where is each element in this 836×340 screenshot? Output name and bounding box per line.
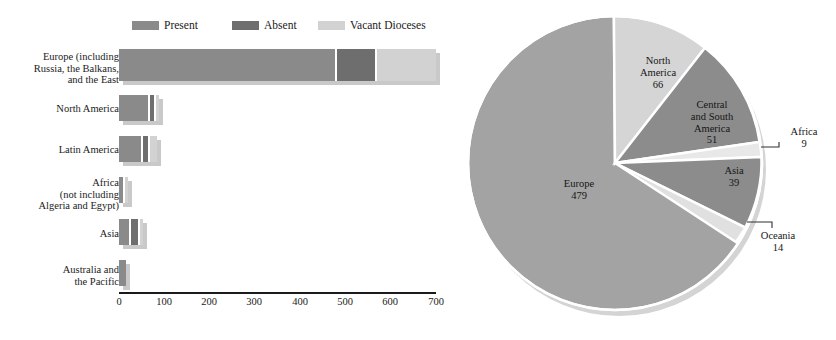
pie-label-name: North [646, 55, 671, 66]
pie-label-name: and South [668, 111, 756, 123]
bar-row [119, 177, 128, 203]
pie-label-value: 14 [747, 242, 809, 254]
x-tick-100: 100 [144, 296, 184, 307]
category-label-line: Europe (including [9, 51, 119, 63]
segment-divider [148, 95, 150, 121]
segment-divider [138, 219, 140, 245]
category-label-line: and the East [9, 74, 119, 86]
category-label-latin-america: Latin America [9, 144, 119, 156]
segment-divider [154, 95, 156, 121]
category-label-line: Algeria and Egypt) [9, 200, 119, 212]
pie-label-name: America [618, 67, 698, 79]
bar-segment-vacant [376, 49, 436, 81]
segment-divider [123, 177, 125, 203]
pie-label-name: America [668, 123, 756, 135]
category-label-line: Latin America [9, 144, 119, 156]
figure-root: Present Absent Vacant Dioceses Europe (i… [0, 0, 836, 340]
x-tick-200: 200 [189, 296, 229, 307]
bar-plot-area: Europe (including Russia, the Balkans, a… [0, 0, 452, 340]
segment-divider [141, 136, 143, 162]
bar-segment-present [119, 95, 149, 121]
x-tick-600: 600 [370, 296, 410, 307]
segment-divider [148, 136, 150, 162]
category-label-line: (not including [9, 189, 119, 201]
pie-label-name: Asia [724, 165, 743, 176]
x-axis-line [119, 292, 436, 294]
category-label-line: Russia, the Balkans, [9, 63, 119, 75]
bar-row [119, 219, 143, 245]
bar-row [119, 260, 126, 286]
bar-segment-vacant [139, 219, 143, 245]
bar-segment-vacant [155, 95, 159, 121]
x-tick-300: 300 [234, 296, 274, 307]
bar-row [119, 136, 157, 162]
category-label-asia: Asia [9, 228, 119, 240]
pie-label-europe: Europe 479 [536, 178, 622, 202]
x-tick-400: 400 [280, 296, 320, 307]
pie-chart-svg [452, 0, 836, 340]
category-label-line: Australia and [9, 264, 119, 276]
category-label-line: North America [9, 103, 119, 115]
pie-label-north-america: North America 66 [618, 55, 698, 90]
segment-divider [129, 219, 131, 245]
x-tick-0: 0 [99, 296, 139, 307]
pie-label-central-south-america: Central and South America 51 [668, 99, 756, 146]
category-label-europe: Europe (including Russia, the Balkans, a… [9, 51, 119, 86]
pie-label-value: 39 [708, 177, 760, 189]
segment-divider [335, 49, 337, 81]
category-label-line: Africa [9, 177, 119, 189]
bar-segment-present [119, 260, 126, 286]
category-label-africa: Africa (not including Algeria and Egypt) [9, 177, 119, 212]
pie-label-value: 9 [779, 138, 829, 150]
category-label-north-america: North America [9, 103, 119, 115]
pie-label-africa: Africa 9 [779, 126, 829, 150]
x-tick-500: 500 [325, 296, 365, 307]
pie-label-value: 479 [536, 190, 622, 202]
pie-label-name: Europe [564, 178, 594, 189]
bar-segment-present [119, 49, 336, 81]
pie-label-value: 51 [668, 134, 756, 146]
category-label-line: Asia [9, 228, 119, 240]
pie-label-oceania: Oceania 14 [747, 230, 809, 254]
bar-row [119, 95, 159, 121]
category-label-line: the Pacific [9, 276, 119, 288]
bar-segment-absent [336, 49, 376, 81]
segment-divider [375, 49, 377, 81]
bar-segment-present [119, 136, 142, 162]
pie-chart: Europe 479 North America 66 Central and … [452, 0, 836, 340]
category-label-australia-pacific: Australia and the Pacific [9, 264, 119, 287]
pie-label-asia: Asia 39 [708, 165, 760, 189]
bar-segment-vacant [124, 177, 128, 203]
pie-label-name: Central [697, 99, 728, 110]
bar-segment-vacant [149, 136, 157, 162]
pie-label-name: Africa [791, 126, 818, 137]
stacked-bar-chart: Present Absent Vacant Dioceses Europe (i… [0, 0, 452, 340]
x-tick-700: 700 [416, 296, 456, 307]
pie-label-value: 66 [618, 79, 698, 91]
pie-label-name: Oceania [761, 230, 795, 241]
bar-row [119, 49, 436, 81]
